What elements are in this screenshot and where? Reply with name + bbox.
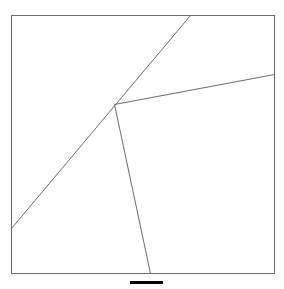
line-diagram-canvas [0,0,284,289]
figure-container: Grain boundary triple junction line diag… [0,0,284,289]
scale-bar [130,281,163,284]
image-frame [12,16,275,274]
